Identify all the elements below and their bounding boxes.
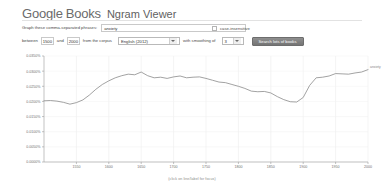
options-row: between 1500 and 2000 from the corpus En… <box>22 36 304 46</box>
corpus-select[interactable]: English (2012) <box>118 37 180 45</box>
between-label: between <box>22 39 38 43</box>
ngram-chart[interactable]: 0.0000%0.0050%0.0100%0.0150%0.0200%0.025… <box>0 50 384 193</box>
x-axis-tick-label: 1850 <box>267 165 275 169</box>
header-divider <box>22 20 362 21</box>
brand-google-text: Google <box>22 6 63 21</box>
x-axis-tick-label: 1950 <box>332 165 340 169</box>
y-axis-tick-label: 0.0350% <box>26 54 41 58</box>
chart-footnote: (click on line/label for focus) <box>0 177 384 181</box>
x-axis-tick-label: 1550 <box>72 165 80 169</box>
y-axis-tick-label: 0.0200% <box>26 100 41 104</box>
brand-books-text: Books <box>66 6 101 21</box>
case-insensitive-checkbox[interactable] <box>212 26 217 31</box>
corpus-label: from the corpus <box>83 39 112 43</box>
case-insensitive-control[interactable]: case-insensitive <box>212 23 250 33</box>
y-axis-tick-label: 0.0250% <box>26 85 41 89</box>
corpus-select-value: English (2012) <box>121 39 165 44</box>
case-insensitive-label: case-insensitive <box>220 26 250 31</box>
search-button[interactable]: Search lots of books <box>252 37 304 46</box>
chart-svg: 0.0000%0.0050%0.0100%0.0150%0.0200%0.025… <box>0 50 384 180</box>
and-label: and <box>57 39 64 43</box>
y-axis-tick-label: 0.0300% <box>26 70 41 74</box>
y-axis-tick-label: 0.0000% <box>26 160 41 164</box>
x-axis-tick-label: 1650 <box>137 165 145 169</box>
y-axis-tick-label: 0.0150% <box>26 115 41 119</box>
smoothing-select[interactable]: 3 <box>222 37 244 45</box>
smoothing-select-value: 3 <box>225 39 229 44</box>
x-axis-tick-label: 1800 <box>234 165 242 169</box>
x-axis-tick-label: 1700 <box>170 165 178 169</box>
series-legend-label[interactable]: anxiety <box>370 65 381 69</box>
brand-bar: Google Books Ngram Viewer <box>22 6 176 21</box>
chevron-down-icon <box>169 38 177 44</box>
product-title: Ngram Viewer <box>107 8 177 20</box>
x-axis-tick-label: 2000 <box>364 165 372 169</box>
y-axis-tick-label: 0.0050% <box>26 145 41 149</box>
y-axis-tick-label: 0.0100% <box>26 130 41 134</box>
year-end-input[interactable]: 2000 <box>67 37 80 45</box>
phrases-label: Graph these comma-separated phrases: <box>22 26 97 30</box>
ngram-viewer-page: Google Books Ngram Viewer Graph these co… <box>0 0 384 193</box>
chevron-down-icon <box>233 38 241 44</box>
x-axis-tick-label: 1900 <box>299 165 307 169</box>
x-axis-tick-label: 1750 <box>202 165 210 169</box>
year-start-input[interactable]: 1500 <box>41 37 54 45</box>
x-axis-tick-label: 1600 <box>105 165 113 169</box>
smoothing-label: with smoothing of <box>183 39 216 43</box>
